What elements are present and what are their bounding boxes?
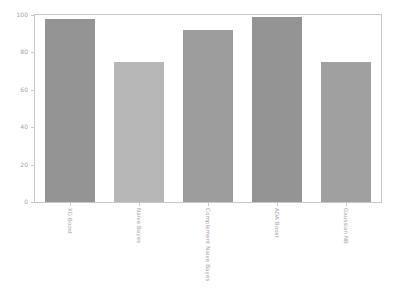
x-tick-mark xyxy=(346,203,347,206)
x-tick-mark xyxy=(208,203,209,206)
x-tick-mark xyxy=(70,203,71,206)
bar xyxy=(183,30,233,202)
y-tick-label: 40 xyxy=(20,122,28,131)
bar xyxy=(45,19,95,202)
x-tick-label: XG Boost xyxy=(67,208,73,234)
y-axis: 020406080100 xyxy=(0,14,34,204)
x-tick-label: Complement Naive Bayes xyxy=(205,208,211,281)
y-tick-label: 100 xyxy=(17,10,28,19)
bar xyxy=(252,17,302,202)
plot-area xyxy=(34,14,382,203)
x-tick-label: Naive Bayes xyxy=(136,208,142,243)
x-tick-label: Gaussian NB xyxy=(343,208,349,244)
y-tick-label: 60 xyxy=(20,85,28,94)
bar-chart-figure: 020406080100 XG BoostNaive BayesCompleme… xyxy=(0,0,403,293)
y-tick-label: 20 xyxy=(20,160,28,169)
bar xyxy=(114,62,164,202)
bar xyxy=(321,62,371,202)
x-tick-mark xyxy=(139,203,140,206)
x-tick-label: ADA Boost xyxy=(274,208,280,238)
y-tick-label: 80 xyxy=(20,47,28,56)
x-tick-mark xyxy=(277,203,278,206)
x-axis: XG BoostNaive BayesComplement Naive Baye… xyxy=(34,203,382,293)
bars-layer xyxy=(35,15,381,202)
y-tick-label: 0 xyxy=(24,197,28,206)
